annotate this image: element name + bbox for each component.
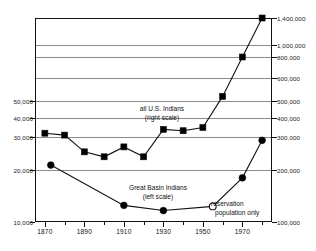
annotation-great-basin-indians: Great Basin Indians (left scale)	[129, 184, 187, 202]
annotation-all-us-indians: all U.S. Indians (right scale)	[140, 105, 184, 123]
data-point-square	[121, 144, 127, 150]
data-point-circle	[239, 174, 246, 181]
chart-container: 50,000 40,000 30,000 20,000 10,000 1,400…	[0, 0, 316, 251]
annotation-reservation-note-line1: reservation	[211, 200, 259, 209]
data-point-square	[220, 93, 226, 99]
series-markers-all-us-indians	[42, 15, 265, 160]
data-point-square	[62, 132, 68, 138]
annotation-great-basin-indians-line1: Great Basin Indians	[129, 184, 187, 193]
data-point-circle	[160, 207, 167, 214]
annotation-reservation-note: reservation population only	[211, 200, 259, 218]
data-point-circle	[259, 137, 266, 144]
annotation-all-us-indians-line1: all U.S. Indians	[140, 105, 184, 114]
data-point-square	[81, 149, 87, 155]
data-point-circle	[120, 202, 127, 209]
annotation-reservation-note-line2: population only	[215, 209, 259, 218]
data-point-square	[42, 130, 48, 136]
data-point-square	[259, 15, 265, 21]
annotation-all-us-indians-line2: (right scale)	[140, 114, 184, 123]
data-point-square	[180, 128, 186, 134]
data-point-square	[141, 154, 147, 160]
data-point-square	[200, 125, 206, 131]
annotation-great-basin-indians-line2: (left scale)	[129, 193, 187, 202]
series-line-all-us-indians	[45, 18, 262, 157]
data-point-square	[239, 54, 245, 60]
data-point-square	[101, 154, 107, 160]
series-layer	[0, 0, 316, 251]
data-point-circle	[47, 162, 54, 169]
data-point-square	[160, 126, 166, 132]
